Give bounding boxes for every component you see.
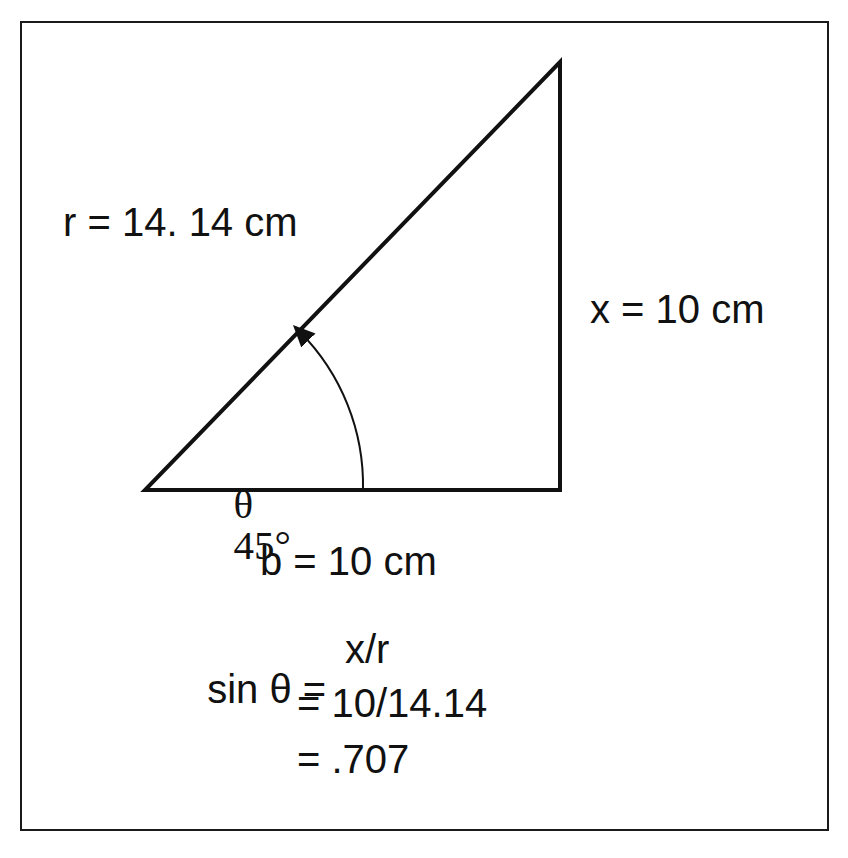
right-triangle — [145, 62, 560, 490]
sine-equation-rhs: x/r — [345, 629, 389, 669]
triangle-diagram — [0, 0, 848, 858]
sine-equation-result: = .707 — [297, 739, 409, 779]
angle-arc-arrow — [300, 332, 363, 490]
opposite-side-label: x = 10 cm — [590, 289, 765, 329]
adjacent-side-label: b = 10 cm — [260, 541, 437, 581]
theta-symbol: θ — [234, 481, 254, 527]
hypotenuse-label: r = 14. 14 cm — [63, 202, 298, 242]
sine-equation-step2: = 10/14.14 — [297, 683, 487, 723]
